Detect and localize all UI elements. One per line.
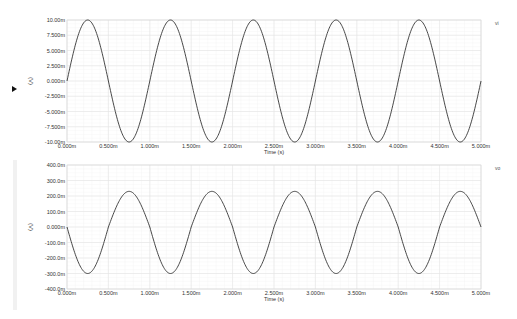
x-tick-label: 2.000m	[223, 290, 242, 296]
y-tick-label: 200.0m	[47, 193, 66, 199]
x-tick-label: 4.000m	[389, 143, 408, 149]
y-tick-label: -10.00m	[45, 139, 66, 145]
chart-vi: 0.000m0.500m1.000m1.500m2.000m2.500m3.00…	[0, 0, 517, 155]
y-tick-label: 5.000m	[47, 48, 66, 54]
x-tick-label: 3.500m	[348, 143, 367, 149]
y-tick-label: 0.000m	[47, 224, 66, 230]
y-tick-label: -300.0m	[45, 271, 66, 277]
plot-panel-vo: 0.000m0.500m1.000m1.500m2.000m2.500m3.00…	[0, 155, 517, 319]
x-tick-label: 1.500m	[182, 143, 201, 149]
y-axis-label: (V)	[28, 77, 34, 85]
x-tick-label: 0.500m	[99, 143, 118, 149]
x-tick-label: 0.500m	[99, 290, 118, 296]
y-tick-label: 300.0m	[47, 178, 66, 184]
y-tick-label: 2.500m	[47, 63, 66, 69]
x-tick-label: 1.000m	[141, 290, 160, 296]
y-tick-label: 100.0m	[47, 209, 66, 215]
x-tick-label: 4.500m	[430, 143, 449, 149]
y-axis-label: (V)	[28, 223, 34, 231]
x-tick-label: 3.500m	[348, 290, 367, 296]
y-tick-label: 10.00m	[47, 17, 66, 23]
y-tick-label: -100.0m	[45, 240, 66, 246]
x-tick-label: 1.500m	[182, 290, 201, 296]
y-tick-label: -5.000m	[45, 109, 66, 115]
plot-panel-vi: 0.000m0.500m1.000m1.500m2.000m2.500m3.00…	[0, 0, 517, 155]
chart-vo: 0.000m0.500m1.000m1.500m2.000m2.500m3.00…	[0, 155, 517, 319]
y-tick-label: 400.0m	[47, 162, 66, 168]
trace-name-label: vo	[495, 165, 501, 171]
x-axis-label: Time (s)	[264, 296, 284, 302]
x-tick-label: 2.000m	[223, 143, 242, 149]
x-tick-label: 5.000m	[472, 143, 491, 149]
x-tick-label: 5.000m	[472, 290, 491, 296]
y-tick-label: -7.500m	[45, 124, 66, 130]
trace-name-label: vi	[495, 20, 499, 26]
x-tick-label: 3.000m	[306, 290, 325, 296]
y-tick-label: -200.0m	[45, 255, 66, 261]
y-tick-label: -400.0m	[45, 286, 66, 292]
y-tick-label: 7.500m	[47, 32, 66, 38]
x-tick-label: 1.000m	[141, 143, 160, 149]
y-tick-label: -2.500m	[45, 93, 66, 99]
y-tick-label: 0.000m	[47, 78, 66, 84]
x-tick-label: 3.000m	[306, 143, 325, 149]
x-tick-label: 4.000m	[389, 290, 408, 296]
x-tick-label: 4.500m	[430, 290, 449, 296]
